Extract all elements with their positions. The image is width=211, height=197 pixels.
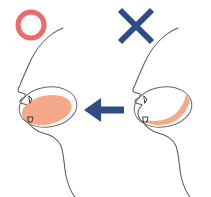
head-profile-correct [16,28,79,197]
chin-neck-incorrect [143,122,190,197]
profile-outline-incorrect [133,28,178,105]
profile-outline-correct [18,28,63,105]
lower-tooth-incorrect [143,117,148,122]
illustration-canvas: Tongue posture comparison diagram correc… [0,0,211,197]
upper-tooth-incorrect [144,96,147,103]
head-profile-incorrect [131,28,194,197]
chin-neck-correct [28,122,75,197]
cross-mark-icon [120,10,152,42]
tongue-correct [20,91,75,130]
tongue-posture-diagram [0,0,211,197]
left-arrow-icon [84,98,124,122]
circle-mark-icon [18,12,44,38]
